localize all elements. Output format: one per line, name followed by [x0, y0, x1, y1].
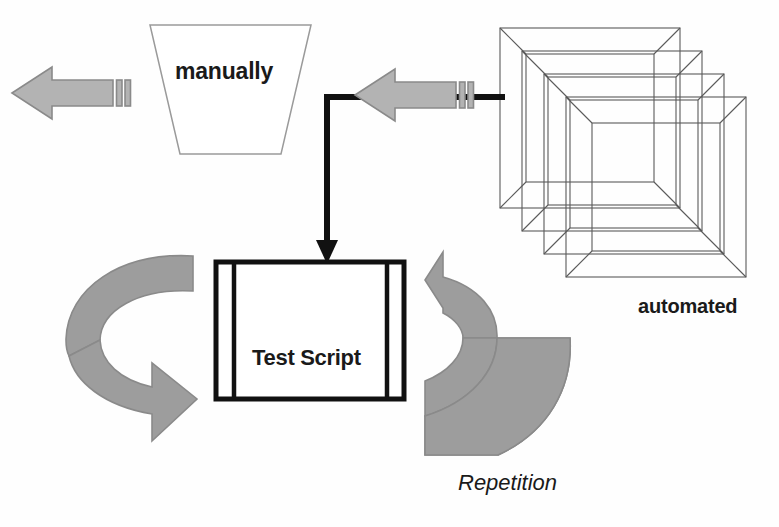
frame-2 — [522, 51, 702, 231]
stacked-frames — [500, 28, 746, 277]
label-repetition: Repetition — [458, 470, 557, 496]
label-automated: automated — [638, 295, 737, 318]
manual-funnel-trapezoid — [150, 25, 311, 154]
predefined-process-box — [216, 262, 404, 399]
striped-left-arrow-output — [12, 67, 131, 119]
diagram-graphics — [0, 0, 779, 527]
frame-3 — [544, 74, 724, 254]
circular-arrow-left — [66, 256, 197, 441]
label-manually: manually — [175, 58, 273, 85]
label-test-script: Test Script — [252, 345, 361, 371]
diagram-canvas: manually Test Script automated Repetitio… — [0, 0, 779, 527]
elbow-connector-arrow — [316, 97, 505, 264]
frame-4 — [566, 97, 746, 277]
striped-left-arrow-center — [355, 69, 474, 121]
frame-1 — [500, 28, 680, 208]
circular-arrow-right — [425, 252, 570, 455]
